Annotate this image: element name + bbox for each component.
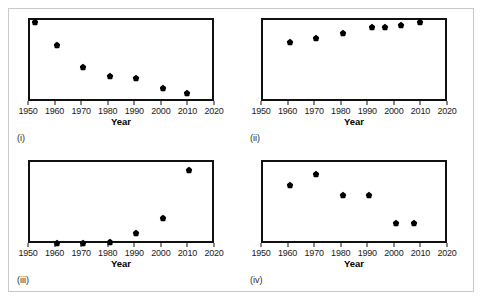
panel-iii: 19501960197019801990200020102020 Year (i…	[9, 151, 242, 293]
x-tick-label-1950: 1950	[251, 106, 270, 116]
x-tick-label-2000: 2000	[151, 106, 170, 116]
x-tick-label-1980: 1980	[98, 248, 117, 258]
panel-caption-ii: (ii)	[250, 133, 260, 143]
axis-title-iii: Year	[111, 258, 131, 269]
panel-caption-iv: (iv)	[250, 275, 263, 285]
x-tick-2000	[160, 243, 161, 247]
data-point	[106, 72, 113, 79]
data-point	[368, 24, 375, 31]
x-tick-label-2010: 2010	[411, 106, 430, 116]
x-tick-label-1970: 1970	[305, 248, 324, 258]
x-tick-label-2020: 2020	[204, 248, 223, 258]
x-tick-1960	[287, 243, 288, 247]
x-tick-label-1990: 1990	[358, 106, 377, 116]
data-point	[286, 182, 293, 189]
x-tick-label-1960: 1960	[45, 248, 64, 258]
data-point	[416, 19, 423, 26]
data-point	[313, 35, 320, 42]
data-points-iv	[263, 162, 445, 241]
x-tick-label-1960: 1960	[278, 248, 297, 258]
axis-title-ii: Year	[344, 116, 364, 127]
x-tick-label-2000: 2000	[151, 248, 170, 258]
data-point	[133, 229, 140, 236]
data-point	[366, 192, 373, 199]
data-point	[133, 75, 140, 82]
x-tick-label-1950: 1950	[18, 248, 37, 258]
x-tick-1990	[134, 243, 135, 247]
x-tick-2000	[393, 243, 394, 247]
x-tick-2010	[420, 101, 421, 105]
data-point	[313, 170, 320, 177]
x-tick-label-1980: 1980	[331, 106, 350, 116]
x-tick-1980	[107, 101, 108, 105]
data-point	[186, 167, 193, 174]
x-tick-label-1980: 1980	[98, 106, 117, 116]
x-tick-1990	[134, 101, 135, 105]
x-tick-1990	[367, 101, 368, 105]
x-tick-label-1970: 1970	[72, 248, 91, 258]
data-point	[53, 240, 60, 247]
x-tick-1950	[28, 243, 29, 247]
data-point	[382, 23, 389, 30]
x-tick-1960	[287, 101, 288, 105]
x-tick-label-2000: 2000	[384, 106, 403, 116]
x-tick-1970	[314, 101, 315, 105]
x-tick-label-1970: 1970	[72, 106, 91, 116]
x-tick-label-1980: 1980	[331, 248, 350, 258]
panel-caption-iii: (iii)	[17, 275, 29, 285]
data-point	[80, 64, 87, 71]
x-tick-1970	[81, 243, 82, 247]
x-tick-1970	[314, 243, 315, 247]
plot-area-ii	[261, 18, 447, 101]
axis-title-iv: Year	[344, 258, 364, 269]
x-tick-label-2010: 2010	[178, 248, 197, 258]
x-tick-1980	[340, 101, 341, 105]
x-tick-1980	[340, 243, 341, 247]
x-tick-label-1970: 1970	[305, 106, 324, 116]
data-point	[392, 220, 399, 227]
x-tick-1990	[367, 243, 368, 247]
data-point	[286, 39, 293, 46]
panel-iv: 19501960197019801990200020102020 Year (i…	[242, 151, 475, 293]
x-tick-1960	[54, 243, 55, 247]
data-point	[398, 21, 405, 28]
x-tick-1970	[81, 101, 82, 105]
data-point	[159, 85, 166, 92]
panel-caption-i: (i)	[17, 133, 25, 143]
data-point	[339, 30, 346, 37]
x-tick-label-2020: 2020	[437, 248, 456, 258]
x-tick-label-2010: 2010	[411, 248, 430, 258]
data-point	[183, 89, 190, 96]
x-tick-2000	[393, 101, 394, 105]
panel-i: 19501960197019801990200020102020 Year (i…	[9, 9, 242, 151]
x-tick-label-2010: 2010	[178, 106, 197, 116]
data-points-iii	[30, 162, 212, 241]
x-tick-label-2020: 2020	[437, 106, 456, 116]
x-tick-1980	[107, 243, 108, 247]
x-tick-label-1990: 1990	[358, 248, 377, 258]
x-tick-label-1950: 1950	[251, 248, 270, 258]
x-tick-label-1990: 1990	[125, 248, 144, 258]
figure-frame: 19501960197019801990200020102020 Year (i…	[8, 8, 474, 292]
plot-area-iii	[28, 160, 214, 243]
x-tick-2020	[447, 101, 448, 105]
x-tick-label-1960: 1960	[45, 106, 64, 116]
x-tick-label-2020: 2020	[204, 106, 223, 116]
data-point	[106, 238, 113, 245]
x-tick-2010	[420, 243, 421, 247]
data-points-ii	[263, 20, 445, 99]
x-tick-1960	[54, 101, 55, 105]
x-tick-2020	[214, 101, 215, 105]
x-tick-2010	[187, 101, 188, 105]
data-point	[159, 215, 166, 222]
data-points-i	[30, 20, 212, 99]
panel-ii: 19501960197019801990200020102020 Year (i…	[242, 9, 475, 151]
x-tick-label-2000: 2000	[384, 248, 403, 258]
x-tick-1950	[28, 101, 29, 105]
data-point	[411, 220, 418, 227]
x-tick-2020	[447, 243, 448, 247]
x-tick-1950	[261, 101, 262, 105]
x-tick-label-1960: 1960	[278, 106, 297, 116]
axis-title-i: Year	[111, 116, 131, 127]
x-tick-label-1990: 1990	[125, 106, 144, 116]
